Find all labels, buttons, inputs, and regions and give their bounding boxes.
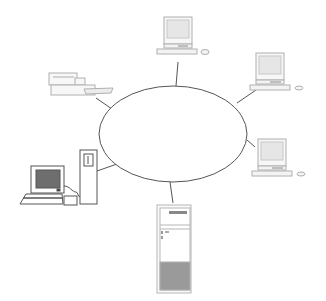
- server-tower-icon: [157, 205, 191, 293]
- link-left-workstation: [97, 164, 117, 171]
- link-printer: [96, 98, 112, 109]
- workstation-right-lower-icon: [252, 139, 305, 176]
- link-right-upper: [237, 90, 256, 103]
- network-diagram: [0, 0, 326, 301]
- printer-icon: [49, 73, 113, 95]
- link-server: [170, 182, 173, 203]
- link-right-lower: [247, 140, 255, 147]
- workstation-right-upper-icon: [250, 53, 303, 90]
- network-ellipse: [99, 86, 247, 182]
- workstation-top-icon: [157, 17, 209, 55]
- workstation-left-icon: [20, 150, 97, 205]
- link-top: [176, 62, 178, 86]
